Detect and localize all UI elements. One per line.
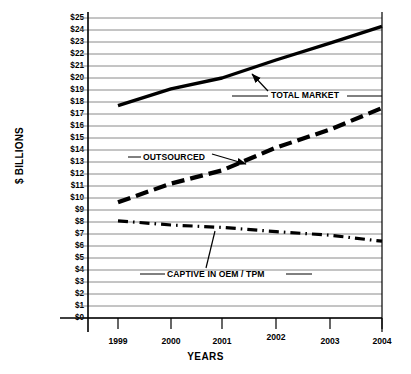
leader-total-market (252, 74, 268, 91)
x-axis-title: YEARS (0, 351, 411, 362)
chart-container: $ BILLIONS $25$24$23$22$21$20$19$18$17$1… (0, 0, 411, 374)
series-line-captive (118, 221, 382, 241)
annotation-total-market: TOTAL MARKET (271, 90, 339, 100)
x-tick-label: 2001 (212, 336, 231, 346)
annotation-outsourced: OUTSOURCED (143, 152, 205, 162)
x-tick-label: 2004 (372, 336, 391, 346)
plot-area (0, 0, 411, 374)
x-tick-label: 1999 (108, 336, 127, 346)
x-tick-label: 2003 (320, 336, 339, 346)
x-tick-label: 2002 (266, 332, 285, 342)
leader-captive (206, 231, 215, 268)
annotation-captive-oem-tpm: CAPTIVE IN OEM / TPM (167, 269, 265, 279)
x-tick-label: 2000 (161, 336, 180, 346)
